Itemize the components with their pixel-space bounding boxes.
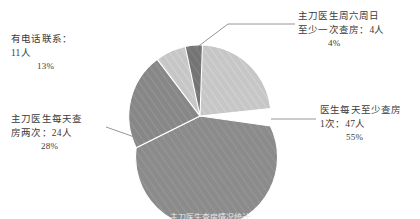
leader-line-weekend-once [196, 24, 295, 48]
pie-label-daily-once-percent: 55% [320, 131, 402, 145]
pie-label-daily-twice: 主刀医生每天查 房两次：24人 28% [11, 113, 82, 154]
pie-label-daily-twice-line2: 房两次：24人 [11, 128, 72, 138]
pie-label-weekend-once: 主刀医生周六周日 至少一次查房：4人 4% [298, 10, 385, 51]
pie-label-phone-contact-percent: 13% [11, 60, 72, 74]
pie-label-daily-once-line1: 医生每天至少查房 [320, 105, 402, 115]
pie-label-phone-contact: 有电话联系： 11人 13% [11, 33, 72, 74]
pie-label-weekend-once-line2: 至少一次查房：4人 [298, 25, 385, 35]
pie-label-daily-twice-line1: 主刀医生每天查 [11, 114, 82, 124]
pie-label-phone-contact-line2: 11人 [11, 48, 31, 58]
pie-label-daily-once: 医生每天至少查房 1次：47人 55% [320, 104, 402, 145]
pie-label-daily-twice-percent: 28% [11, 140, 82, 154]
pie-label-daily-once-line2: 1次：47人 [320, 119, 365, 129]
pie-chart: 主刀医生周六周日 至少一次查房：4人 4% 医生每天至少查房 1次：47人 55… [0, 0, 420, 219]
pie-label-phone-contact-line1: 有电话联系： [11, 34, 72, 44]
chart-caption-clipped: 主刀医生查房情况统计 [0, 211, 420, 219]
pie-label-weekend-once-percent: 4% [298, 37, 385, 51]
pie-label-weekend-once-line1: 主刀医生周六周日 [298, 11, 380, 21]
